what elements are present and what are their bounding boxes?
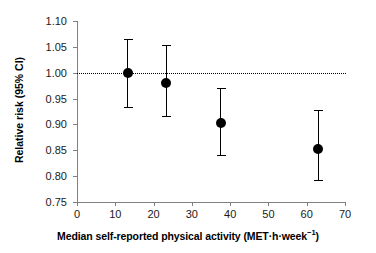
error-cap-lower	[314, 180, 323, 181]
x-tick-label: 70	[339, 208, 351, 220]
x-tick-label: 40	[224, 208, 236, 220]
error-cap-upper	[124, 39, 133, 40]
y-tick-label: 0.80	[46, 170, 67, 182]
data-point-marker	[313, 144, 323, 154]
y-axis-line	[77, 21, 78, 203]
x-tick	[77, 202, 78, 206]
x-tick	[115, 202, 116, 206]
x-tick-label: 0	[74, 208, 80, 220]
error-cap-upper	[162, 45, 171, 46]
relative-risk-scatter-chart: 0.750.800.850.900.951.001.051.10 0102030…	[0, 0, 376, 253]
x-tick	[345, 202, 346, 206]
error-cap-upper	[314, 110, 323, 111]
x-tick-label: 30	[186, 208, 198, 220]
error-cap-lower	[162, 116, 171, 117]
x-axis-title: Median self-reported physical activity (…	[0, 228, 376, 242]
y-tick-label: 0.90	[46, 118, 67, 130]
y-tick: 0.85	[73, 150, 77, 151]
x-tick	[307, 202, 308, 206]
y-tick: 0.90	[73, 124, 77, 125]
x-tick	[192, 202, 193, 206]
error-cap-lower	[124, 107, 133, 108]
x-tick-label: 50	[262, 208, 274, 220]
y-tick-label: 0.85	[46, 144, 67, 156]
x-tick-label: 10	[109, 208, 121, 220]
data-point-marker	[123, 68, 133, 78]
data-point-marker	[216, 118, 226, 128]
y-tick-label: 1.00	[46, 67, 67, 79]
plot-area: 0.750.800.850.900.951.001.051.10 0102030…	[77, 21, 345, 202]
x-tick	[268, 202, 269, 206]
data-point-marker	[161, 78, 171, 88]
y-tick-label: 1.10	[46, 15, 67, 27]
y-tick-label: 0.95	[46, 93, 67, 105]
y-tick: 0.95	[73, 99, 77, 100]
x-tick	[154, 202, 155, 206]
y-tick: 1.10	[73, 21, 77, 22]
y-tick: 0.80	[73, 176, 77, 177]
error-cap-lower	[217, 155, 226, 156]
reference-line-rr-1	[77, 73, 346, 74]
x-tick-label: 60	[301, 208, 313, 220]
x-axis-line	[77, 202, 346, 203]
error-cap-upper	[217, 88, 226, 89]
y-axis-title: Relative risk (95% CI)	[13, 20, 25, 200]
y-tick-label: 1.05	[46, 41, 67, 53]
y-tick-label: 0.75	[46, 196, 67, 208]
x-tick-label: 20	[147, 208, 159, 220]
y-tick: 1.05	[73, 47, 77, 48]
x-tick	[230, 202, 231, 206]
